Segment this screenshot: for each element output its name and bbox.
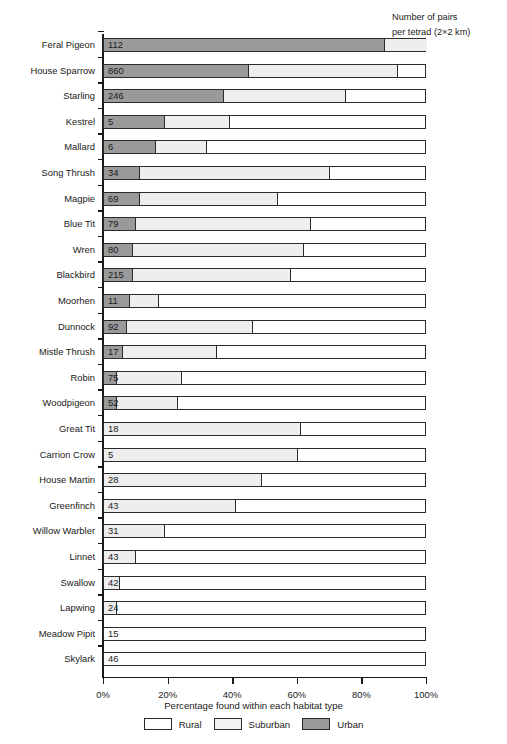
- stacked-bar: [103, 524, 426, 538]
- stacked-bar: [103, 268, 426, 282]
- category-label: Moorhen: [58, 292, 95, 310]
- segment-suburban: [249, 65, 398, 77]
- stacked-bar: [103, 601, 426, 615]
- pairs-value: 79: [108, 215, 118, 233]
- stacked-bar: [103, 448, 426, 462]
- x-axis-tick-label: 60%: [287, 689, 306, 700]
- segment-rural: [291, 269, 425, 281]
- legend-swatch-rural: [144, 718, 172, 730]
- legend-label: Rural: [179, 719, 202, 730]
- segment-rural: [301, 423, 425, 435]
- category-label: Carrion Crow: [40, 446, 95, 464]
- y-axis-tick: [98, 415, 104, 416]
- category-label: Linnet: [69, 548, 95, 566]
- category-label: Song Thrush: [41, 164, 95, 182]
- y-axis-tick: [98, 569, 104, 570]
- segment-suburban: [385, 39, 427, 51]
- stacked-bar-chart: Number of pairs per tetrad (2×2 km) Fera…: [0, 0, 507, 744]
- legend-item: Urban: [302, 718, 363, 730]
- category-label: House Martin: [39, 471, 95, 489]
- stacked-bar: [103, 345, 426, 359]
- stacked-bar: [103, 140, 426, 154]
- pairs-value: 860: [108, 62, 124, 80]
- pairs-value: 28: [108, 471, 118, 489]
- stacked-bar: [103, 89, 426, 103]
- segment-suburban: [117, 397, 178, 409]
- y-axis-tick: [98, 364, 104, 365]
- segment-rural: [104, 628, 425, 640]
- y-axis-tick: [98, 543, 104, 544]
- y-axis-tick: [98, 338, 104, 339]
- segment-rural: [253, 321, 425, 333]
- chart-legend: RuralSuburbanUrban: [0, 718, 507, 730]
- legend-swatch-suburban: [214, 718, 242, 730]
- segment-rural: [165, 525, 425, 537]
- category-label: Lapwing: [60, 599, 95, 617]
- segment-rural: [182, 372, 425, 384]
- segment-rural: [217, 346, 425, 358]
- stacked-bar: [103, 473, 426, 487]
- y-axis-tick: [98, 261, 104, 262]
- segment-suburban: [140, 193, 279, 205]
- pairs-value: 5: [108, 113, 113, 131]
- pairs-value: 31: [108, 522, 118, 540]
- category-label: Greenfinch: [49, 497, 95, 515]
- y-axis-tick: [98, 287, 104, 288]
- category-label: Mistle Thrush: [39, 343, 95, 361]
- segment-suburban: [133, 244, 304, 256]
- category-label: Swallow: [61, 574, 95, 592]
- y-axis-tick: [98, 185, 104, 186]
- segment-rural: [104, 653, 425, 665]
- y-axis-tick: [98, 492, 104, 493]
- y-axis-tick: [98, 31, 104, 32]
- y-axis-tick: [98, 57, 104, 58]
- pairs-value: 42: [108, 574, 118, 592]
- segment-rural: [304, 244, 425, 256]
- stacked-bar: [103, 550, 426, 564]
- y-axis-tick: [98, 620, 104, 621]
- x-axis-title: Percentage found within each habitat typ…: [0, 700, 507, 711]
- pairs-value: 112: [108, 36, 123, 54]
- stacked-bar: [103, 192, 426, 206]
- y-axis-tick: [98, 466, 104, 467]
- segment-rural: [207, 141, 425, 153]
- x-axis-tick-label: 80%: [352, 689, 371, 700]
- segment-suburban: [127, 321, 253, 333]
- segment-suburban: [133, 269, 291, 281]
- x-axis-tick: [426, 678, 427, 684]
- pairs-value: 46: [108, 650, 118, 668]
- pairs-value: 15: [108, 625, 118, 643]
- stacked-bar: [103, 499, 426, 513]
- segment-suburban: [104, 449, 298, 461]
- segment-rural: [117, 602, 425, 614]
- segment-rural: [262, 474, 425, 486]
- segment-suburban: [140, 167, 331, 179]
- segment-rural: [178, 397, 425, 409]
- segment-suburban: [130, 295, 159, 307]
- category-label: Great Tit: [59, 420, 95, 438]
- x-axis-tick: [103, 678, 104, 684]
- legend-item: Rural: [144, 718, 202, 730]
- segment-suburban: [123, 346, 217, 358]
- pairs-value: 24: [108, 599, 118, 617]
- category-label: Dunnock: [58, 318, 95, 336]
- category-label: Willow Warbler: [33, 522, 95, 540]
- y-axis-tick: [98, 210, 104, 211]
- stacked-bar: [103, 652, 426, 666]
- segment-suburban: [104, 474, 262, 486]
- category-label: Robin: [71, 369, 96, 387]
- segment-rural: [346, 90, 425, 102]
- category-label: Feral Pigeon: [42, 36, 95, 54]
- segment-rural: [120, 577, 425, 589]
- y-axis-tick: [98, 133, 104, 134]
- pairs-value: 18: [108, 420, 118, 438]
- segment-rural: [136, 551, 425, 563]
- legend-label: Urban: [337, 719, 363, 730]
- y-axis-tick: [98, 594, 104, 595]
- segment-rural: [230, 116, 425, 128]
- segment-suburban: [104, 500, 236, 512]
- category-label: Kestrel: [66, 113, 95, 131]
- stacked-bar: [103, 396, 426, 410]
- stacked-bar: [103, 627, 426, 641]
- pairs-value: 5: [108, 446, 113, 464]
